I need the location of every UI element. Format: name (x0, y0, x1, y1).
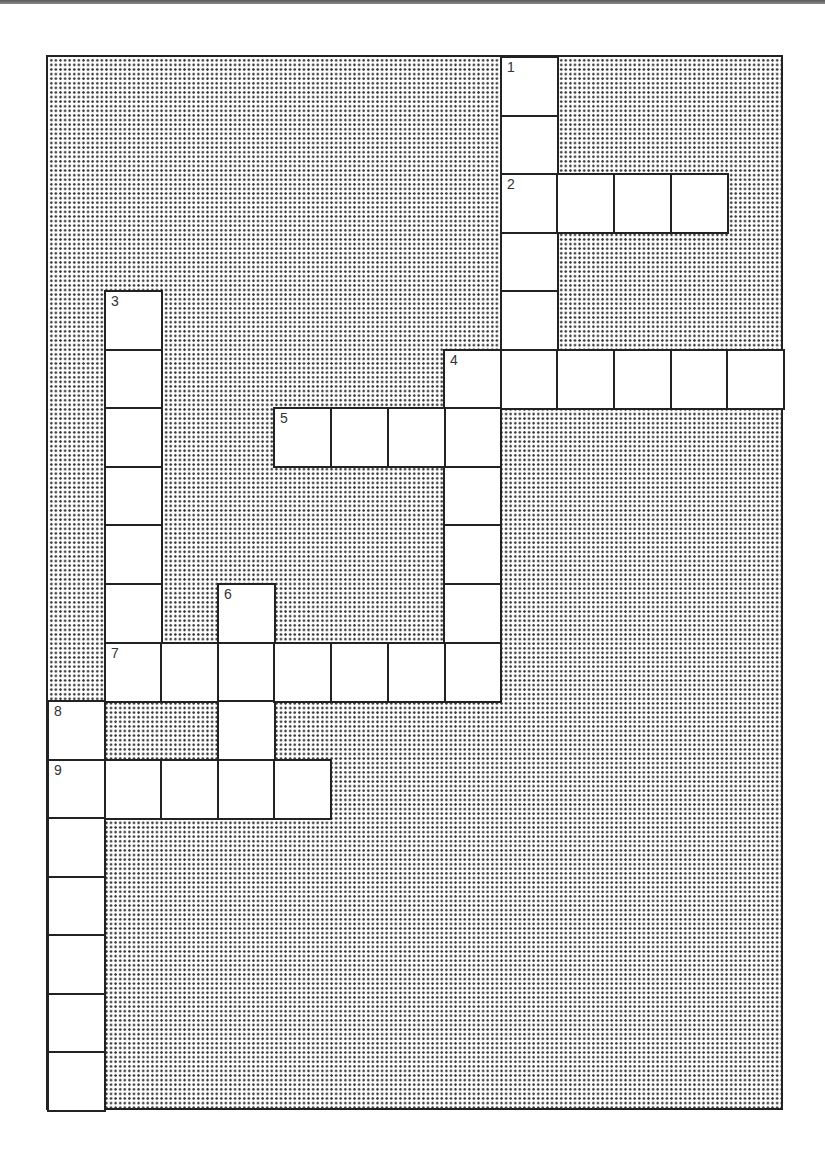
crossword-cell[interactable] (556, 349, 615, 410)
crossword-cell[interactable] (613, 349, 672, 410)
crossword-cell[interactable] (330, 642, 389, 703)
crossword-cell[interactable] (217, 700, 276, 761)
crossword-cell[interactable] (160, 759, 219, 820)
crossword-cell[interactable] (104, 583, 163, 644)
clue-number: 1 (507, 59, 515, 75)
crossword-cell[interactable] (217, 642, 276, 703)
crossword-cell[interactable] (726, 349, 785, 410)
clue-number: 5 (280, 410, 288, 426)
crossword-cell[interactable] (443, 466, 502, 527)
crossword-cell[interactable] (387, 642, 446, 703)
crossword-cell[interactable] (443, 642, 502, 703)
clue-number: 8 (54, 703, 62, 719)
crossword-cell[interactable] (47, 934, 106, 995)
crossword-cell[interactable] (500, 232, 559, 293)
crossword-cell[interactable] (47, 876, 106, 937)
crossword-cell[interactable] (217, 759, 276, 820)
crossword-cell[interactable] (104, 759, 163, 820)
crossword-cell[interactable] (47, 993, 106, 1054)
crossword-cell[interactable] (387, 407, 446, 468)
crossword-cell[interactable] (613, 173, 672, 234)
clue-number: 3 (111, 293, 119, 309)
crossword-cell[interactable]: 2 (500, 173, 559, 234)
crossword-cell[interactable] (104, 524, 163, 585)
crossword-cell[interactable] (47, 1051, 106, 1112)
crossword-cell[interactable] (104, 349, 163, 410)
crossword-cell[interactable] (330, 407, 389, 468)
crossword-cell[interactable] (104, 466, 163, 527)
clue-number: 9 (54, 762, 62, 778)
crossword-cell[interactable]: 5 (273, 407, 332, 468)
crossword-cell[interactable] (273, 642, 332, 703)
crossword-cell[interactable] (443, 583, 502, 644)
crossword-cell[interactable] (670, 173, 729, 234)
crossword-cell[interactable] (500, 115, 559, 176)
top-rule (0, 0, 825, 4)
crossword-cell[interactable]: 6 (217, 583, 276, 644)
crossword-cell[interactable]: 8 (47, 700, 106, 761)
crossword-cell[interactable]: 9 (47, 759, 106, 820)
crossword-cell[interactable] (500, 349, 559, 410)
clue-number: 7 (111, 645, 119, 661)
crossword-cell[interactable] (443, 524, 502, 585)
crossword-cell[interactable] (670, 349, 729, 410)
crossword-grid: 123745689 (46, 55, 783, 1110)
crossword-cell[interactable] (104, 407, 163, 468)
crossword-cell[interactable]: 3 (104, 290, 163, 351)
crossword-cell[interactable] (47, 817, 106, 878)
crossword-cell[interactable]: 7 (104, 642, 163, 703)
crossword-cell[interactable] (500, 290, 559, 351)
clue-number: 2 (507, 176, 515, 192)
crossword-cell[interactable] (273, 759, 332, 820)
clue-number: 6 (224, 586, 232, 602)
crossword-cell[interactable] (443, 407, 502, 468)
crossword-cell[interactable]: 4 (443, 349, 502, 410)
crossword-cell[interactable] (556, 173, 615, 234)
clue-number: 4 (450, 352, 458, 368)
crossword-cell[interactable]: 1 (500, 56, 559, 117)
crossword-cell[interactable] (160, 642, 219, 703)
